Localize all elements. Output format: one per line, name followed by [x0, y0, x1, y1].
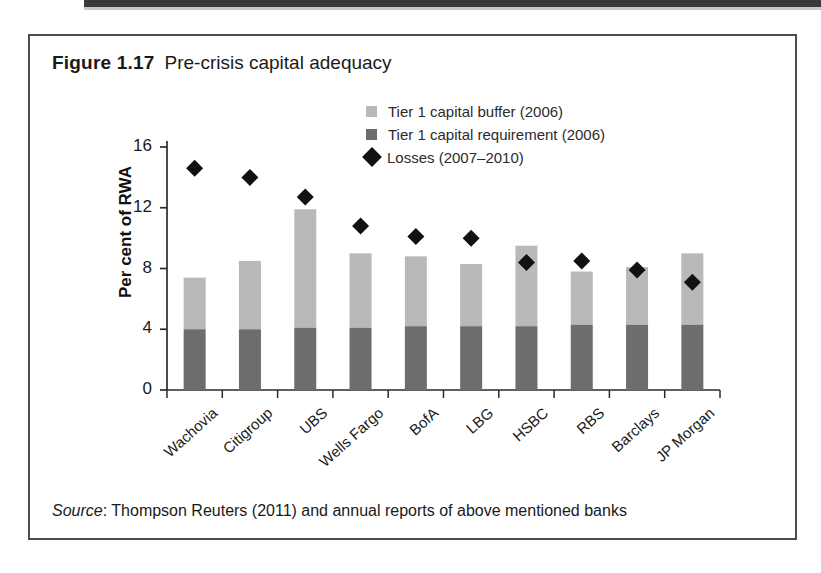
bar-segment-requirement: [350, 328, 372, 390]
bar-segment-buffer: [405, 256, 427, 326]
loss-marker-diamond: [241, 169, 258, 186]
bar-segment-requirement: [515, 326, 537, 390]
bar-segment-requirement: [460, 326, 482, 390]
bar-segment-requirement: [626, 325, 648, 390]
bar-segment-buffer: [294, 209, 316, 327]
loss-marker-diamond: [573, 252, 590, 269]
bar-segment-buffer: [350, 253, 372, 327]
scan-artifact-strip: [84, 0, 821, 7]
loss-marker-diamond: [186, 160, 203, 177]
scan-artifact-strip-light: [84, 7, 821, 10]
y-axis-tick-label: 0: [118, 379, 152, 399]
source-text: : Thompson Reuters (2011) and annual rep…: [103, 502, 627, 519]
loss-marker-diamond: [297, 189, 314, 206]
loss-marker-diamond: [407, 228, 424, 245]
source-note: Source: Thompson Reuters (2011) and annu…: [52, 502, 627, 520]
bar-segment-buffer: [571, 272, 593, 325]
figure-container: Figure 1.17Pre-crisis capital adequacy T…: [28, 34, 797, 540]
loss-marker-diamond: [463, 230, 480, 247]
bar-segment-requirement: [571, 325, 593, 390]
chart-plot-area: 0481216WachoviaCitigroupUBSWells FargoBo…: [30, 36, 799, 542]
bar-segment-buffer: [239, 261, 261, 329]
bar-segment-requirement: [405, 326, 427, 390]
loss-marker-diamond: [352, 217, 369, 234]
bar-segment-requirement: [294, 328, 316, 390]
bar-segment-requirement: [239, 329, 261, 390]
bar-segment-requirement: [681, 325, 703, 390]
bar-segment-buffer: [184, 278, 206, 330]
y-axis-title: Per cent of RWA: [116, 132, 136, 332]
bar-segment-requirement: [184, 329, 206, 390]
bar-segment-buffer: [460, 264, 482, 326]
source-label: Source: [52, 502, 103, 519]
